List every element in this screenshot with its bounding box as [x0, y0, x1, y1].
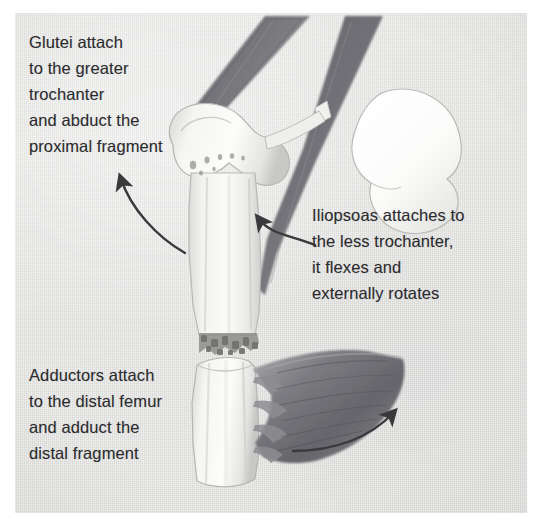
adductors-force-arrow [293, 413, 393, 451]
iliopsoas-force-arrow [259, 219, 315, 245]
adductors-annotation: Adductors attach to the distal femur and… [29, 362, 244, 466]
glutei-annotation: Glutei attach to the greater trochanter … [29, 29, 244, 159]
figure-page: Glutei attach to the greater trochanter … [0, 0, 534, 530]
glutei-force-arrow [121, 179, 185, 253]
iliopsoas-annotation: Iliopsoas attaches to the less trochante… [312, 202, 527, 306]
illustration-panel: Glutei attach to the greater trochanter … [15, 13, 527, 513]
